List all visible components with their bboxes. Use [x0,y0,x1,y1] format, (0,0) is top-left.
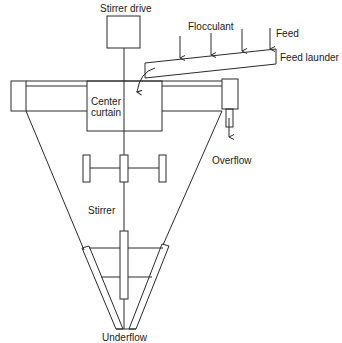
label-center: Center [91,96,121,107]
paddle-center [120,155,128,182]
rake-arm-left [82,246,123,329]
label-underflow: Underflow [102,332,147,343]
stirrer-drive-box [107,16,140,48]
rim-left-end [11,81,26,111]
label-feed: Feed [276,28,299,39]
paddle-right [159,155,166,182]
label-curtain: curtain [91,107,121,118]
rim-right-end [222,79,238,109]
thickener-diagram: Stirrer drive Flocculant Feed Feed laund… [0,0,342,343]
cone-wall-left [26,111,84,250]
label-overflow: Overflow [212,155,251,166]
rake-arm-right [129,244,169,329]
lower-shaft-sleeve [120,231,128,299]
paddle-left [83,155,90,182]
cone-wall-right [163,111,222,245]
label-stirrer-drive: Stirrer drive [100,3,152,14]
label-stirrer: Stirrer [88,205,115,216]
label-feed-launder: Feed launder [280,52,339,63]
label-flocculant: Flocculant [188,21,234,32]
